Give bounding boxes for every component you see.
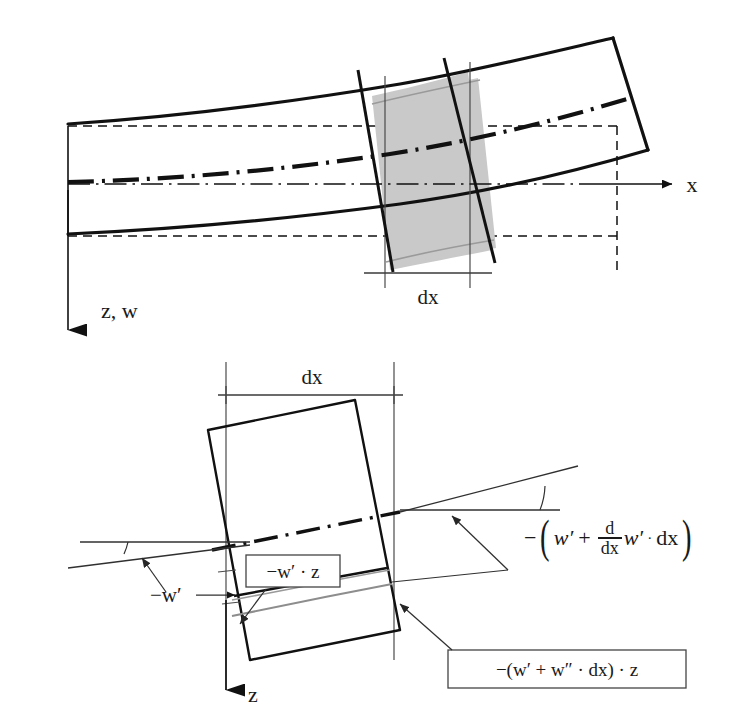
deformed-neutral-axis — [68, 98, 630, 182]
element-neutral-axis — [212, 512, 400, 550]
dx-dimension-lower: dx — [218, 365, 403, 404]
formula-close-paren: ) — [682, 521, 692, 553]
formula-fraction-denominator: dx — [598, 539, 622, 557]
slope-right-formula: − ( w′ + d dx w′ · dx ) — [524, 519, 695, 557]
beam-top-edge — [68, 38, 613, 124]
z-w-axis-label: z, w — [101, 298, 138, 323]
formula-term-w1: w′ — [554, 525, 574, 551]
upper-diagram: x z, w dx — [68, 38, 698, 330]
right-tangent-line — [400, 466, 578, 512]
right-angle-leader — [452, 516, 508, 570]
beam-kinematics-figure: x z, w dx dx — [0, 0, 740, 727]
slope-left-label: −w′ — [150, 583, 182, 607]
figure-canvas: x z, w dx dx — [0, 0, 740, 727]
dx-dimension-upper: dx — [364, 273, 492, 309]
dx-label-lower: dx — [302, 365, 324, 389]
dx-label-upper: dx — [418, 285, 440, 309]
formula-fraction: d dx — [598, 519, 622, 557]
beam-bottom-edge — [68, 150, 648, 234]
formula-fraction-numerator: d — [602, 519, 617, 537]
right-formula-leader-tail — [392, 570, 508, 582]
left-face-tick-bottom — [222, 602, 240, 604]
shaded-element-dx — [372, 72, 496, 270]
left-angle-arc — [124, 542, 128, 554]
beam-right-face — [613, 38, 648, 150]
formula-plus: + — [578, 525, 590, 551]
formula-term-w2: w′ — [624, 525, 644, 551]
undeformed-reference-outline — [68, 126, 617, 270]
left-tangent-line — [68, 545, 250, 568]
z-axis-label-lower: z — [248, 682, 258, 707]
formula-dot: · — [647, 530, 652, 547]
gray-fibre-curve — [232, 584, 392, 616]
x-axis-label: x — [687, 172, 698, 197]
formula-minus: − — [524, 525, 536, 551]
boxed-label-right-text: −(w′ + w″ · dx) · z — [496, 659, 638, 681]
right-angle-arc — [540, 486, 545, 510]
boxed-label-right: −(w′ + w″ · dx) · z — [400, 604, 686, 688]
boxed-label-left-text: −w′ · z — [267, 561, 320, 582]
boxed-label-right-leader — [400, 604, 452, 650]
formula-open-paren: ( — [540, 521, 550, 553]
formula-term-dx: dx — [656, 525, 678, 551]
